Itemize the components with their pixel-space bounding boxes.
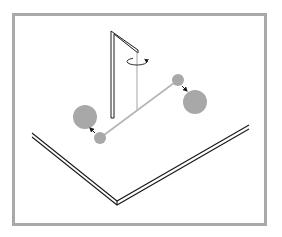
support-post xyxy=(111,31,114,118)
small-sphere-right xyxy=(172,74,184,86)
large-sphere-left xyxy=(73,105,97,129)
table-surface xyxy=(32,125,249,205)
balance-rod xyxy=(100,80,178,138)
diagram-svg xyxy=(0,0,282,237)
torsion-balance-diagram xyxy=(0,0,282,237)
attraction-arrow-right-icon xyxy=(182,86,186,90)
small-sphere-left xyxy=(94,132,106,144)
support-arm xyxy=(111,31,138,53)
large-sphere-right xyxy=(183,90,207,114)
frame-border xyxy=(14,15,266,225)
attraction-arrow-left-icon xyxy=(91,129,95,133)
